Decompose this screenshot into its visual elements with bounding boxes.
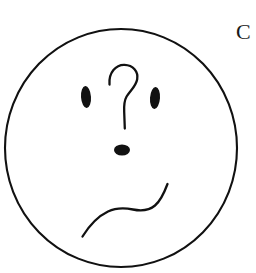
corner-letter-label: C xyxy=(236,17,256,47)
drawing-canvas: C xyxy=(0,0,256,273)
confused-face-drawing xyxy=(0,0,256,273)
nose-dot xyxy=(114,145,130,156)
